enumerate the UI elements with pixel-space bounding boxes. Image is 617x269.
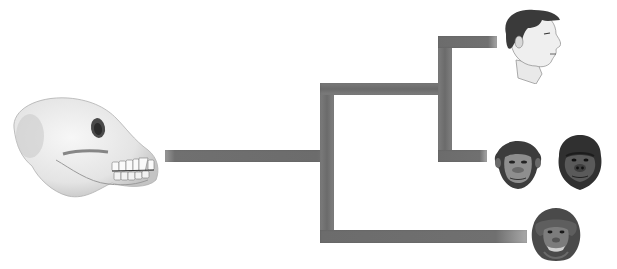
- human-head-icon: [502, 8, 564, 84]
- chimp-gorilla-branch: [438, 150, 487, 162]
- skull-icon: [8, 88, 163, 203]
- orangutan-face-icon: [530, 206, 582, 264]
- chimpanzee-face-icon: [493, 139, 543, 191]
- root-branch: [165, 150, 327, 162]
- hominin-vertical-branch: [438, 36, 452, 162]
- human-branch: [438, 36, 497, 48]
- main-vertical-branch: [320, 83, 334, 243]
- gorilla-face-icon: [555, 134, 605, 192]
- great-ape-upper-branch: [320, 83, 452, 95]
- orangutan-branch: [320, 230, 527, 243]
